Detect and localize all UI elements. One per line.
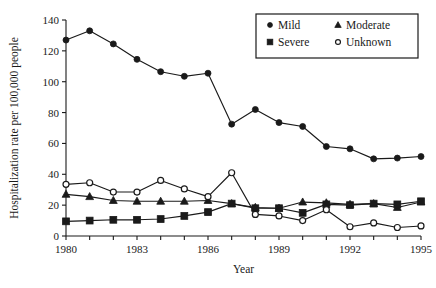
marker-filled-circle [158, 69, 164, 75]
legend-label-mild: Mild [278, 19, 301, 31]
x-axis-title: Year [233, 263, 254, 275]
y-axis-title: Hospitalization rate per 100,000 people [8, 37, 21, 219]
x-tick-label: 1995 [410, 243, 433, 255]
series-line-severe [66, 201, 421, 221]
marker-filled-square [394, 201, 401, 208]
marker-open-circle [418, 223, 424, 229]
marker-filled-circle [252, 106, 258, 112]
x-tick-label: 1986 [197, 243, 220, 255]
marker-open-circle [276, 213, 282, 219]
marker-open-circle [110, 189, 116, 195]
marker-open-circle [394, 225, 400, 231]
legend-label-moderate: Moderate [346, 19, 390, 31]
y-tick-label: 100 [43, 76, 60, 88]
marker-open-circle [323, 207, 329, 213]
marker-filled-circle [229, 121, 235, 127]
marker-filled-square [63, 218, 70, 225]
marker-filled-square [267, 39, 273, 45]
marker-open-circle [205, 194, 211, 200]
x-tick-label: 1992 [339, 243, 361, 255]
marker-open-circle [336, 40, 341, 45]
marker-filled-square [110, 216, 117, 223]
marker-filled-circle [134, 56, 140, 62]
marker-filled-square [134, 216, 141, 223]
marker-filled-triangle [157, 197, 165, 204]
chart-legend[interactable]: MildModerateSevereUnknown [256, 14, 418, 58]
y-tick-label: 140 [43, 14, 60, 26]
marker-filled-square [299, 209, 306, 216]
marker-filled-circle [300, 123, 306, 129]
marker-filled-square [370, 200, 377, 207]
legend-label-severe: Severe [278, 36, 309, 48]
marker-filled-circle [276, 120, 282, 126]
marker-open-circle [229, 170, 235, 176]
y-tick-label: 40 [48, 168, 60, 180]
marker-open-circle [87, 180, 93, 186]
marker-filled-triangle [62, 190, 70, 197]
x-tick-label: 1983 [126, 243, 149, 255]
marker-open-circle [371, 220, 377, 226]
marker-filled-square [276, 205, 283, 212]
marker-filled-triangle [299, 198, 307, 205]
marker-filled-circle [347, 146, 353, 152]
y-tick-label: 20 [48, 199, 60, 211]
y-tick-label: 120 [43, 45, 60, 57]
y-tick-label: 0 [54, 230, 60, 242]
y-tick-label: 60 [48, 137, 60, 149]
marker-open-circle [63, 181, 69, 187]
marker-filled-square [181, 213, 188, 220]
marker-open-circle [347, 224, 353, 230]
chart-container: 0204060801001201401980198319861989199219… [0, 0, 436, 288]
series-severe [63, 198, 425, 225]
marker-filled-circle [181, 73, 187, 79]
marker-filled-circle [371, 156, 377, 162]
marker-filled-square [157, 216, 164, 223]
x-tick-label: 1989 [268, 243, 291, 255]
marker-filled-circle [268, 23, 273, 28]
x-tick-label: 1980 [55, 243, 78, 255]
y-tick-label: 80 [48, 107, 60, 119]
marker-filled-square [205, 209, 212, 216]
marker-filled-circle [394, 155, 400, 161]
marker-open-circle [158, 177, 164, 183]
marker-open-circle [134, 189, 140, 195]
marker-open-circle [181, 186, 187, 192]
marker-open-circle [300, 218, 306, 224]
line-chart: 0204060801001201401980198319861989199219… [0, 0, 436, 288]
marker-filled-circle [110, 41, 116, 47]
legend-label-unknown: Unknown [346, 36, 392, 48]
marker-filled-square [228, 200, 235, 207]
marker-filled-circle [418, 154, 424, 160]
marker-filled-square [86, 217, 93, 224]
marker-filled-square [347, 202, 354, 209]
marker-filled-square [418, 198, 425, 205]
marker-filled-circle [205, 70, 211, 76]
marker-filled-circle [323, 144, 329, 150]
marker-filled-circle [63, 37, 69, 43]
marker-filled-circle [87, 28, 93, 34]
marker-open-circle [252, 211, 258, 217]
